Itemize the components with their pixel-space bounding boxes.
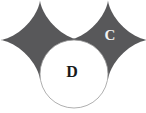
- geometric-figure: C D: [0, 0, 146, 113]
- figure-canvas: C D: [0, 0, 146, 113]
- label-d: D: [66, 63, 78, 80]
- label-c: C: [105, 27, 116, 43]
